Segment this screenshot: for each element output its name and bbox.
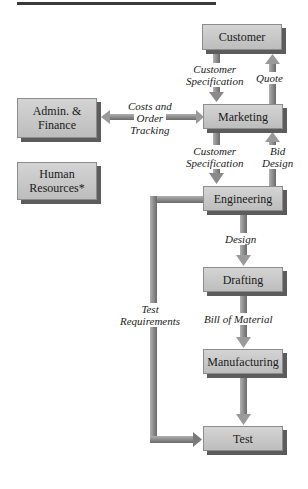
node-label: Customer <box>219 30 266 44</box>
node-label-line1: Human <box>39 167 74 181</box>
edge-label-customer-specification-1: Customer Specification <box>186 63 243 87</box>
edge-label-design: Design <box>225 233 256 245</box>
node-label: Manufacturing <box>207 355 278 369</box>
node-customer: Customer <box>202 24 282 50</box>
edge-label-bid-design: Bid Design <box>262 145 293 169</box>
node-admin-finance: Admin. & Finance <box>17 98 97 138</box>
node-label-line1: Admin. & <box>33 104 82 118</box>
node-test: Test <box>203 426 283 451</box>
node-label-line2: Resources* <box>29 181 84 195</box>
edge-label-costs-order-tracking: Costs and Order Tracking <box>128 100 172 136</box>
edge-label-bill-of-material: Bill of Material <box>204 313 272 325</box>
node-label: Drafting <box>223 273 264 287</box>
node-drafting: Drafting <box>203 267 283 292</box>
node-label: Test <box>233 432 253 446</box>
edge-label-test-requirements: Test Requirements <box>120 303 180 327</box>
node-human-resources: Human Resources* <box>17 162 97 200</box>
node-label-line2: Finance <box>38 118 76 132</box>
node-marketing: Marketing <box>203 104 283 129</box>
edge-label-customer-specification-2: Customer Specification <box>186 145 243 169</box>
node-label: Marketing <box>218 110 268 124</box>
edge-label-quote: Quote <box>256 72 283 84</box>
node-manufacturing: Manufacturing <box>203 349 283 374</box>
node-label: Engineering <box>214 192 273 206</box>
node-engineering: Engineering <box>203 186 283 211</box>
